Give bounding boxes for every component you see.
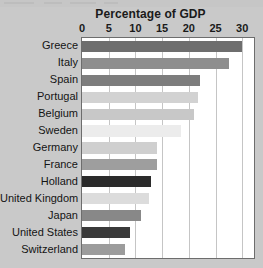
category-label-greece: Greece (0, 39, 78, 51)
x-axis-tick-labels: 051015202530 (81, 22, 236, 36)
bar-united-kingdom (82, 193, 149, 204)
bar-japan (82, 210, 141, 221)
chart-container: Percentage of GDP 051015202530 GreeceIta… (0, 0, 263, 268)
bar-row (82, 106, 254, 123)
chart-title: Percentage of GDP (0, 7, 263, 21)
bar-portugal (82, 92, 198, 103)
bar-row (82, 207, 254, 224)
x-tick-label-10: 10 (129, 22, 141, 34)
bar-switzerland (82, 244, 125, 255)
x-tick-label-20: 20 (183, 22, 195, 34)
bar-italy (82, 58, 229, 69)
category-label-united-kingdom: United Kingdom (0, 192, 78, 204)
bar-germany (82, 142, 157, 153)
x-tick-label-25: 25 (209, 22, 221, 34)
category-label-belgium: Belgium (0, 107, 78, 119)
bar-spain (82, 75, 200, 86)
category-label-france: France (0, 158, 78, 170)
plot-area (81, 37, 255, 259)
bar-united-states (82, 227, 130, 238)
bar-row (82, 123, 254, 140)
category-axis-labels: GreeceItalySpainPortugalBelgiumSwedenGer… (0, 37, 78, 259)
bar-sweden (82, 125, 181, 136)
bar-row (82, 89, 254, 106)
x-tick-label-0: 0 (79, 22, 85, 34)
bar-greece (82, 41, 242, 52)
x-tick-label-15: 15 (156, 22, 168, 34)
bar-row (82, 140, 254, 157)
bar-holland (82, 176, 151, 187)
cropped-edge-artifact (0, 0, 263, 7)
bar-row (82, 72, 254, 89)
category-label-japan: Japan (0, 209, 78, 221)
bar-row (82, 156, 254, 173)
bar-belgium (82, 109, 194, 120)
bar-row (82, 190, 254, 207)
bar-rows (82, 38, 254, 258)
bar-row (82, 55, 254, 72)
category-label-united-states: United States (0, 226, 78, 238)
x-tick-label-5: 5 (106, 22, 112, 34)
bar-france (82, 159, 157, 170)
bar-row (82, 241, 254, 258)
category-label-sweden: Sweden (0, 124, 78, 136)
x-tick-label-30: 30 (236, 22, 248, 34)
category-label-spain: Spain (0, 73, 78, 85)
category-label-germany: Germany (0, 141, 78, 153)
category-label-italy: Italy (0, 56, 78, 68)
category-label-holland: Holland (0, 175, 78, 187)
bar-row (82, 38, 254, 55)
category-label-switzerland: Switzerland (0, 243, 78, 255)
bar-row (82, 173, 254, 190)
category-label-portugal: Portugal (0, 90, 78, 102)
bar-row (82, 224, 254, 241)
